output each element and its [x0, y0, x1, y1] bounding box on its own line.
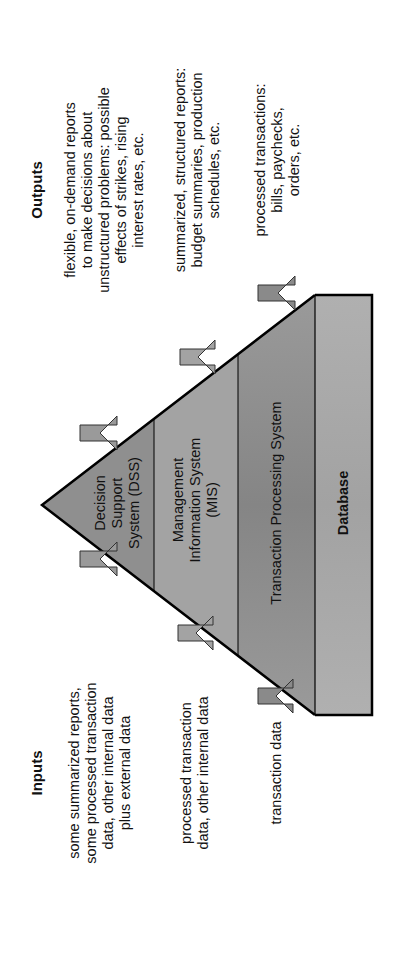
dss-label-line: Support [109, 433, 126, 573]
output-tps-text: processed transactions: bills, paychecks… [252, 60, 303, 260]
text-line: to make decisions about [79, 60, 96, 320]
text-line: orders, etc. [286, 60, 303, 260]
text-line: effects of strikes, rising [113, 60, 130, 320]
database-label: Database [335, 403, 352, 603]
text-line: unstructured problems: possible [96, 60, 113, 320]
outputs-heading: Outputs [28, 90, 45, 290]
text-line: summarized, structured reports: [172, 50, 189, 290]
output-mis-text: summarized, structured reports: budget s… [172, 50, 223, 290]
dss-label-line: System (DSS) [126, 433, 143, 573]
arrow-up-icon [180, 340, 215, 374]
inputs-heading: Inputs [28, 673, 45, 873]
text-line: processed transactions: [252, 60, 269, 260]
dss-label: Decision Support System (DSS) [92, 433, 143, 573]
output-dss-text: flexible, on-demand reports to make deci… [62, 60, 147, 320]
mis-label-line: Information System [187, 415, 204, 585]
mis-label-line: (MIS) [204, 415, 221, 585]
text-line: data, other internal data [100, 653, 117, 893]
text-line: schedules, etc. [206, 50, 223, 290]
pyramid-diagram: Decision Support System (DSS) Management… [0, 0, 398, 953]
database-label-line: Database [335, 403, 352, 603]
text-line: processed transaction [178, 653, 195, 893]
mis-label: Management Information System (MIS) [170, 415, 221, 585]
input-tps-text: transaction data [268, 653, 285, 893]
text-line: some summarized reports, [66, 653, 83, 893]
text-line: interest rates, etc. [130, 60, 147, 320]
text-line: budget summaries, production [189, 50, 206, 290]
text-line: transaction data [268, 653, 285, 893]
text-line: some processed transaction [83, 653, 100, 893]
tps-label: Transaction Processing System [268, 353, 285, 653]
input-mis-text: processed transaction data, other intern… [178, 653, 212, 893]
arrow-up-icon [258, 276, 295, 310]
tps-label-line: Transaction Processing System [268, 353, 285, 653]
text-line: plus external data [117, 653, 134, 893]
text-line: bills, paychecks, [269, 60, 286, 260]
dss-label-line: Decision [92, 433, 109, 573]
text-line: data, other internal data [195, 653, 212, 893]
mis-label-line: Management [170, 415, 187, 585]
input-dss-text: some summarized reports, some processed … [66, 653, 134, 893]
text-line: flexible, on-demand reports [62, 60, 79, 320]
